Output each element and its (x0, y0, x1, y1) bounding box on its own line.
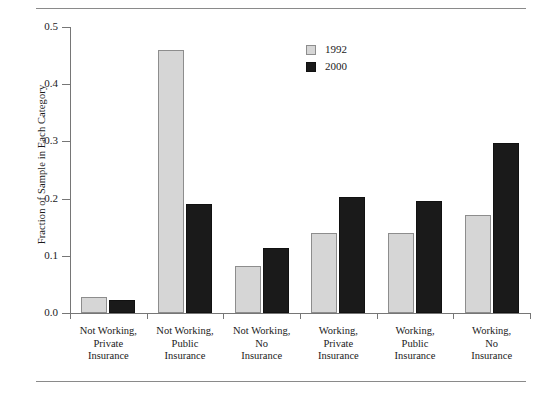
bar-2000-1 (109, 300, 135, 313)
plot-area (70, 27, 530, 313)
legend-item[interactable]: 2000 (306, 58, 347, 75)
bar-1992-5 (388, 233, 414, 313)
bar-2000-4 (339, 197, 365, 313)
y-axis-tick (62, 313, 70, 314)
bar-1992-3 (235, 266, 261, 313)
x-axis-tick (147, 313, 148, 319)
legend: 1992 2000 (306, 41, 347, 75)
x-axis-tick (377, 313, 378, 319)
y-axis-tick-label: 0.1 (18, 250, 58, 261)
x-axis-tick (453, 313, 454, 319)
y-axis-tick (62, 27, 70, 28)
legend-swatch-1992-icon (306, 45, 316, 55)
top-rule (36, 8, 526, 9)
x-axis-category-label: Working, No Insurance (447, 325, 536, 363)
bar-2000-5 (416, 201, 442, 313)
x-axis-tick (530, 313, 531, 319)
x-axis-category-label: Working, Public Insurance (371, 325, 460, 363)
bar-1992-6 (465, 215, 491, 313)
y-axis-tick (62, 84, 70, 85)
bar-1992-1 (81, 297, 107, 313)
bar-2000-3 (263, 248, 289, 313)
legend-label: 1992 (325, 44, 347, 55)
bottom-rule (36, 381, 526, 382)
bar-1992-4 (311, 233, 337, 313)
y-axis-tick-label: 0.4 (18, 78, 58, 89)
y-axis-tick-label: 0.5 (18, 21, 58, 32)
x-axis-category-label: Not Working, Public Insurance (141, 325, 230, 363)
bar-2000-6 (493, 143, 519, 313)
x-axis-tick (70, 313, 71, 319)
legend-swatch-2000-icon (306, 62, 316, 72)
x-axis-tick (300, 313, 301, 319)
x-axis-category-label: Working, Private Insurance (294, 325, 383, 363)
x-axis-category-label: Not Working, Private Insurance (64, 325, 153, 363)
y-axis-tick (62, 141, 70, 142)
legend-label: 2000 (325, 61, 347, 72)
bar-2000-2 (186, 204, 212, 313)
x-axis-tick (223, 313, 224, 319)
bar-1992-2 (158, 50, 184, 313)
y-axis-tick-label: 0.2 (18, 193, 58, 204)
bar-chart-figure: Fraction of Sample in Each Category 0.00… (0, 0, 548, 393)
y-axis-tick (62, 256, 70, 257)
y-axis-tick-label: 0.3 (18, 135, 58, 146)
legend-item[interactable]: 1992 (306, 41, 347, 58)
y-axis-tick-label: 0.0 (18, 307, 58, 318)
x-axis-category-label: Not Working, No Insurance (217, 325, 306, 363)
y-axis-tick (62, 199, 70, 200)
